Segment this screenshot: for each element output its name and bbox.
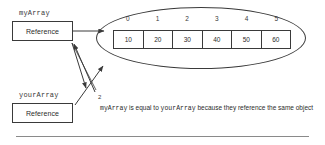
array-index-row: 0 1 2 3 4 5 (113, 14, 291, 24)
array-cell: 30 (173, 31, 203, 48)
array-cell: 20 (144, 31, 174, 48)
array-cell: 50 (232, 31, 262, 48)
myarray-reference-box: Reference (12, 21, 73, 41)
array-cell: 10 (114, 31, 144, 48)
array-index: 1 (143, 14, 173, 24)
array-index: 3 (202, 14, 232, 24)
diagram-caption: myArray is equal to yourArray because th… (100, 104, 313, 112)
caption-myarray-token: myArray (100, 105, 127, 112)
arrow-crossing-down (72, 43, 86, 88)
array-index: 5 (261, 14, 291, 24)
caption-reason-text: because they reference the same object (196, 104, 313, 111)
annotation-number: 2 (98, 94, 101, 100)
array-index: 0 (113, 14, 143, 24)
myarray-reference-text: Reference (26, 28, 59, 35)
array-cell: 60 (262, 31, 291, 48)
section-divider (16, 136, 309, 137)
yourarray-reference-box: Reference (12, 103, 73, 123)
diagram-canvas: myArray Reference yourArray Reference 0 … (0, 0, 325, 145)
yourarray-variable-label: yourArray (19, 91, 59, 99)
caption-connector-text: is equal to (127, 104, 160, 111)
myarray-variable-label: myArray (19, 9, 50, 17)
array-value-row: 10 20 30 40 50 60 (113, 30, 291, 49)
yourarray-reference-text: Reference (26, 110, 59, 117)
arrow-note-leader-upper (72, 43, 96, 90)
arrow-note-to-myarray-box (74, 44, 95, 92)
array-cell: 40 (203, 31, 233, 48)
caption-yourarray-token: yourArray (161, 105, 196, 112)
array-index: 4 (232, 14, 262, 24)
array-index: 2 (172, 14, 202, 24)
